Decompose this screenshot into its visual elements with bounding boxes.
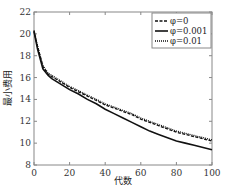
y-tick-label: 18	[20, 51, 32, 61]
x-tick-label: 40	[99, 168, 111, 178]
y-tick-label: 16	[20, 73, 32, 83]
y-tick-label: 14	[20, 94, 32, 104]
y-axis-title: 最小费用	[2, 70, 13, 106]
legend: φ=0φ=0.001φ=0.01	[152, 13, 211, 48]
legend-label: φ=0.001	[170, 26, 207, 36]
line-chart: 810121416182022 020406080100 φ=0φ=0.001φ…	[0, 0, 226, 190]
x-tick-label: 100	[203, 168, 220, 178]
x-tick-label: 60	[135, 168, 147, 178]
legend-label: φ=0.01	[170, 36, 202, 46]
y-tick-label: 22	[20, 7, 31, 17]
x-axis-title: 代数	[114, 175, 132, 186]
x-tick-label: 20	[64, 168, 76, 178]
y-tick-label: 12	[20, 116, 31, 126]
x-tick-label: 80	[171, 168, 183, 178]
y-tick-label: 20	[20, 29, 32, 39]
series-line-solid	[34, 32, 212, 150]
x-tick-label: 0	[31, 168, 37, 178]
legend-label: φ=0	[170, 16, 188, 26]
y-tick-label: 10	[20, 138, 32, 148]
